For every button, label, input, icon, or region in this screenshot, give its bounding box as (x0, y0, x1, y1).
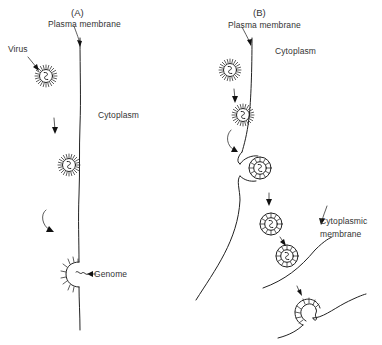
panel-a-plasma-membrane-label: Plasma membrane (48, 19, 121, 29)
virus-entry-diagram: (A) Plasma membrane Virus Cytoplasm Geno… (0, 0, 382, 345)
panel-a-drawing (28, 26, 96, 330)
genome-label: Genome (94, 269, 127, 279)
panel-b-drawing (196, 27, 366, 338)
panel-b-cytoplasm-label: Cytoplasm (275, 46, 316, 56)
panel-a-label: (A) (71, 7, 84, 18)
panel-a-cytoplasm-label: Cytoplasm (98, 110, 139, 120)
panel-b-label: (B) (253, 7, 266, 18)
diagram-drawing (0, 0, 382, 345)
panel-b-plasma-membrane-label: Plasma membrane (228, 20, 301, 30)
virus-label: Virus (8, 44, 28, 54)
cytoplasmic-membrane-label: Cytoplasmic membrane (320, 215, 380, 241)
